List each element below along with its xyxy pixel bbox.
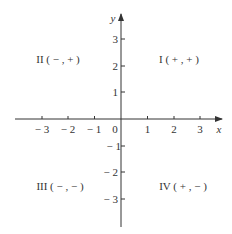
quadrant-label-i: I ( + , + ) — [159, 53, 199, 66]
quadrant-label-iii: III ( − , − ) — [36, 180, 84, 193]
x-tick-label: − 2 — [61, 123, 75, 135]
quadrant-label-ii: II ( − , + ) — [36, 53, 80, 66]
y-tick-label: 1 — [113, 86, 119, 98]
y-axis-label: y — [110, 12, 116, 24]
y-tick-label: 2 — [113, 60, 119, 72]
y-tick-label: − 2 — [104, 166, 118, 178]
x-tick-label: 1 — [145, 123, 151, 135]
y-tick-label: 3 — [113, 33, 119, 45]
y-tick-label: − 3 — [104, 193, 119, 205]
x-tick-label: 2 — [171, 123, 177, 135]
x-tick-label: 3 — [197, 123, 203, 135]
x-tick-label: − 1 — [87, 123, 101, 135]
y-tick-label: − 1 — [107, 140, 121, 152]
origin-label: 0 — [112, 123, 118, 135]
x-axis-label: x — [216, 123, 222, 135]
coordinate-plane-diagram: − 3 − 2 − 1 1 2 3 0 x 3 2 1 − 1 − 2 − 3 … — [0, 0, 232, 234]
quadrant-label-iv: IV ( + , − ) — [159, 180, 207, 193]
x-tick-label: − 3 — [35, 123, 50, 135]
